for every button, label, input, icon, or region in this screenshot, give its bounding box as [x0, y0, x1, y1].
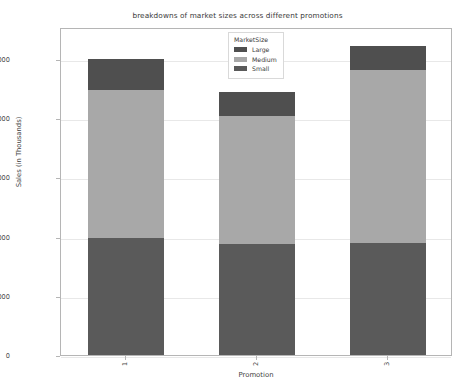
- bar-segment-1-medium: [88, 90, 164, 238]
- y-tick-label-10000: 10000: [0, 56, 10, 64]
- bar-segment-3-medium: [350, 70, 426, 243]
- y-tick-mark-4000: [56, 238, 60, 239]
- bar-segment-2-medium: [219, 116, 295, 244]
- y-tick-label-6000: 6000: [0, 174, 10, 182]
- legend-swatch-small: [234, 66, 247, 71]
- bar-segment-1-small: [88, 238, 164, 355]
- bar-segment-1-large: [88, 59, 164, 90]
- x-tick-mark-1: [125, 356, 126, 360]
- legend-item-medium[interactable]: Medium: [234, 55, 277, 64]
- legend-label-medium: Medium: [252, 56, 277, 63]
- x-tick-mark-3: [387, 356, 388, 360]
- y-tick-label-4000: 4000: [0, 234, 10, 242]
- chart-figure: breakdowns of market sizes across differ…: [0, 0, 475, 391]
- legend-label-large: Large: [252, 46, 269, 53]
- bar-segment-3-small: [350, 243, 426, 355]
- y-tick-mark-6000: [56, 178, 60, 179]
- legend-entries: LargeMediumSmall: [234, 45, 277, 73]
- chart-title: breakdowns of market sizes across differ…: [0, 11, 475, 20]
- legend-item-large[interactable]: Large: [234, 45, 277, 54]
- y-tick-mark-2000: [56, 297, 60, 298]
- y-tick-label-8000: 8000: [0, 115, 10, 123]
- legend-swatch-large: [234, 47, 247, 52]
- bar-segment-3-large: [350, 46, 426, 70]
- y-tick-mark-0: [56, 356, 60, 357]
- y-tick-label-0: 0: [0, 352, 10, 360]
- bar-stack-3: [350, 27, 426, 355]
- bar-segment-2-small: [219, 244, 295, 355]
- y-tick-mark-8000: [56, 119, 60, 120]
- bar-segment-2-large: [219, 92, 295, 116]
- y-tick-mark-10000: [56, 60, 60, 61]
- x-tick-mark-2: [256, 356, 257, 360]
- x-axis-label: Promotion: [60, 371, 452, 379]
- legend: MarketSize LargeMediumSmall: [228, 32, 284, 79]
- legend-title: MarketSize: [234, 36, 277, 43]
- y-tick-label-2000: 2000: [0, 293, 10, 301]
- y-axis-label: Sales (in Thousands): [15, 97, 23, 207]
- legend-label-small: Small: [252, 65, 269, 72]
- legend-item-small[interactable]: Small: [234, 64, 277, 73]
- bar-stack-1: [88, 27, 164, 355]
- legend-swatch-medium: [234, 57, 247, 62]
